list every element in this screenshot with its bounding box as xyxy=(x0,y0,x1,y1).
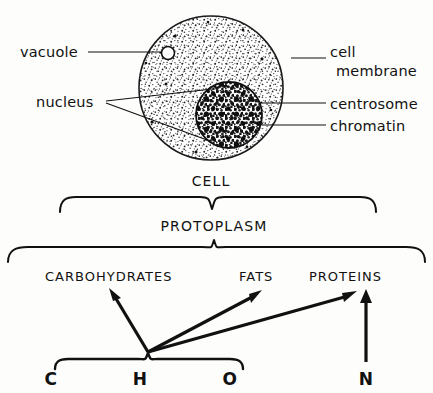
label-chromatin: chromatin xyxy=(330,118,405,134)
label-element-c: C xyxy=(45,369,58,389)
cell-composition-diagram: vacuole nucleus cell membrane centrosome… xyxy=(0,0,433,393)
brace-elements-cho xyxy=(55,353,243,369)
label-fats: FATS xyxy=(239,269,273,284)
label-nucleus: nucleus xyxy=(36,94,93,110)
caption-cell: CELL xyxy=(192,173,231,189)
label-proteins: PROTEINS xyxy=(309,269,382,284)
vacuole-shape xyxy=(162,47,175,60)
label-protoplasm: PROTOPLASM xyxy=(161,218,268,234)
arrow-to-carbohydrates xyxy=(109,288,148,352)
label-centrosome: centrosome xyxy=(330,96,418,112)
arrow-to-fats xyxy=(148,290,262,352)
brace-compounds xyxy=(8,240,425,262)
label-cell-membrane-line1: cell xyxy=(330,44,356,60)
cell-illustration xyxy=(88,16,326,160)
label-element-h: H xyxy=(133,369,148,389)
label-carbohydrates: CARBOHYDRATES xyxy=(45,269,172,284)
arrow-to-proteins-from-nitrogen xyxy=(360,289,372,362)
diagram-canvas: vacuole nucleus cell membrane centrosome… xyxy=(0,0,433,393)
label-element-n: N xyxy=(359,369,374,389)
label-vacuole: vacuole xyxy=(20,44,78,60)
label-element-o: O xyxy=(223,369,238,389)
label-cell-membrane-line2: membrane xyxy=(336,63,417,79)
brace-protoplasm-upper xyxy=(60,197,376,212)
